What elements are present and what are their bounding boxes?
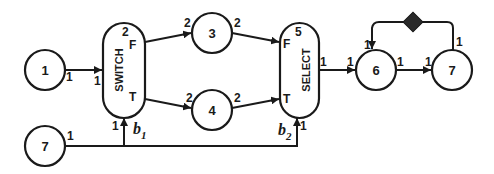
edge-n3-select-f	[232, 33, 279, 42]
dataflow-diagram: 1 SWITCH 3 4 SELECT 6 7 7 1 1 2 F T 2 2 …	[0, 0, 494, 174]
control-b2-var: b	[278, 121, 286, 138]
node-1[interactable]: 1	[25, 50, 65, 90]
node-label: 3	[208, 26, 215, 41]
node-label: 7	[448, 63, 455, 78]
rate-switch-in: 1	[94, 74, 101, 88]
edge-switch-t-n4	[145, 99, 191, 108]
switch-port-f: F	[129, 38, 136, 52]
node-label: 7	[41, 139, 48, 154]
edge-n7b-select-control	[65, 118, 297, 146]
rate-n6-out: 1	[397, 55, 404, 69]
rate-n1-out: 1	[66, 70, 73, 84]
node-6[interactable]: 6	[356, 50, 396, 90]
rate-n4-out: 2	[234, 91, 241, 105]
select-tag: 5	[295, 25, 302, 39]
node-4[interactable]: 4	[192, 90, 232, 130]
rate-n3-in: 2	[184, 16, 191, 30]
delay-diamond-icon	[403, 12, 423, 32]
node-7-right[interactable]: 7	[432, 50, 472, 90]
select-port-t: T	[283, 92, 291, 106]
select-port-f: F	[283, 37, 290, 51]
rate-n3-out: 2	[234, 16, 241, 30]
rate-switch-ctrl-in: 1	[112, 119, 119, 133]
control-label-b2: b 2	[278, 121, 292, 142]
control-label-b1: b 1	[133, 120, 147, 141]
switch-port-t: T	[129, 90, 137, 104]
node-label: 1	[41, 63, 48, 78]
node-label: 4	[208, 103, 216, 118]
rate-select-ctrl-in: 1	[300, 119, 307, 133]
node-label: 6	[372, 63, 379, 78]
rate-n6-in: 1	[347, 55, 354, 69]
switch-label: SWITCH	[113, 48, 125, 91]
select-label: SELECT	[300, 48, 312, 92]
rate-select-out: 1	[320, 55, 327, 69]
control-b2-sub: 2	[285, 130, 292, 142]
rate-n6-fb-in: 1	[364, 38, 371, 52]
edge-switch-f-n3	[145, 33, 191, 42]
node-3[interactable]: 3	[192, 13, 232, 53]
node-7-bottom[interactable]: 7	[25, 126, 65, 166]
rate-n7-in: 1	[425, 55, 432, 69]
rate-n7-fb-out: 1	[456, 35, 463, 49]
rate-n4-in: 2	[186, 91, 193, 105]
rate-n7b-out: 1	[67, 129, 74, 143]
control-b1-sub: 1	[141, 129, 147, 141]
switch-tag: 2	[122, 25, 129, 39]
control-b1-var: b	[133, 120, 141, 137]
